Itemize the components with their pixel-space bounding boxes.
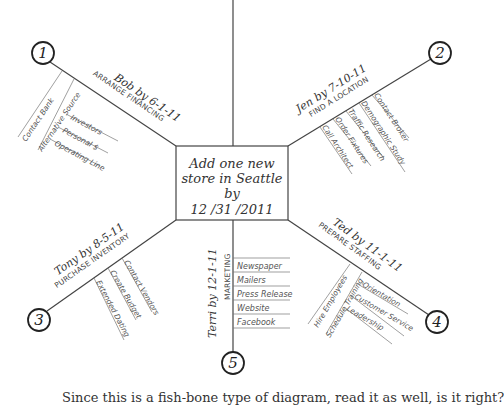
task-5: MARKETING	[223, 254, 232, 301]
branch-3: 3 Tony by 8-5-11 PURCHASE INVENTORY Cont…	[28, 220, 176, 340]
subtask-press-release: Press Release	[237, 290, 293, 299]
center-line-1: Add one new	[188, 156, 274, 171]
branch-5: 5 Terri by 12-1-11 MARKETING Newspaper M…	[206, 220, 293, 374]
subtask-mailers: Mailers	[237, 276, 266, 285]
svg-text:5: 5	[228, 354, 238, 372]
svg-text:2: 2	[434, 44, 445, 62]
center-line-4: 12 /31 /2011	[190, 202, 273, 217]
branch-1: 1 Bob by 6-1-11 ARRANGE FINANCING Contac…	[18, 42, 183, 173]
branch-4: 4 Ted by 11-1-11 PREPARE STAFFING Hire E…	[288, 210, 448, 344]
subtask-newspaper: Newspaper	[237, 262, 283, 271]
svg-text:3: 3	[34, 311, 44, 329]
subtask-website: Website	[237, 304, 269, 313]
svg-text:1: 1	[38, 44, 48, 62]
owner-1: Bob by 6-1-11	[111, 70, 183, 125]
caption-text: Since this is a fish-bone type of diagra…	[62, 390, 462, 405]
owner-5: Terri by 12-1-11	[206, 248, 219, 338]
center-line-2: store in Seattle	[181, 171, 282, 186]
svg-text:4: 4	[431, 313, 442, 331]
branch-2: 2 Jen by 7-10-11 FIND A LOCATION Call Ar…	[288, 42, 451, 174]
center-line-3: by	[224, 186, 240, 201]
subtask-facebook: Facebook	[237, 318, 276, 327]
